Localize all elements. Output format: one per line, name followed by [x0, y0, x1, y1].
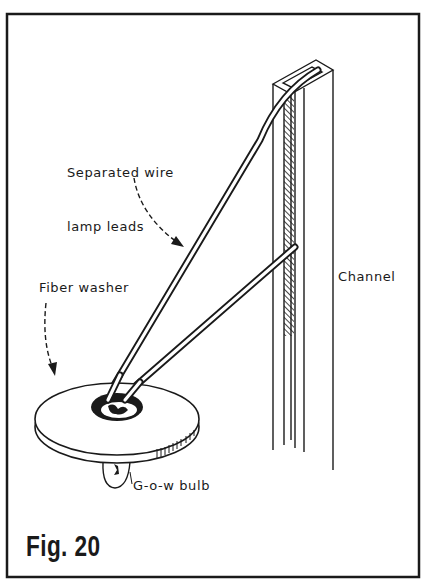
- wire-leads-label: Separated wire lamp leads: [67, 128, 174, 272]
- bulb-icon: [103, 462, 130, 488]
- wire-leads-label-line1: Separated wire: [67, 164, 174, 182]
- channel-label: Channel: [338, 268, 396, 286]
- bulb-label: G-o-w bulb: [133, 477, 210, 495]
- bulb-leader-line: [130, 472, 132, 484]
- figure-20: Separated wire lamp leads Fiber washer C…: [0, 0, 427, 584]
- channel-icon: [273, 60, 333, 470]
- fiber-washer-label: Fiber washer: [39, 279, 129, 297]
- wire-leads-label-line2: lamp leads: [67, 218, 174, 236]
- fiber-washer-leader-arrow: [45, 303, 57, 376]
- figure-caption: Fig. 20: [26, 530, 100, 563]
- fiber-washer-icon: [35, 383, 199, 463]
